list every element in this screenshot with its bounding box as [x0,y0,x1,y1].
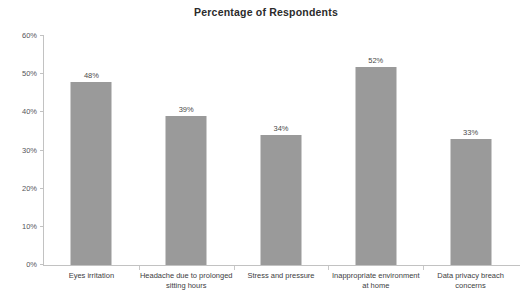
bar-group[interactable]: 33% [423,36,518,265]
plot-area: 48%39%34%52%33% [44,36,518,265]
y-axis-tick: 60% [0,31,44,41]
x-axis-label: Headache due to prolonged sitting hours [139,271,234,291]
y-axis-tick: 50% [0,69,44,79]
bar-group[interactable]: 39% [139,36,234,265]
bar[interactable] [166,116,207,265]
category-tick [423,266,424,270]
chart-title: Percentage of Respondents [0,6,532,18]
y-axis-tick-label: 10% [22,222,37,232]
bar-chart: Percentage of Respondents 0%10%20%30%40%… [0,0,532,296]
bar-value-label: 34% [273,124,288,133]
y-axis-tick: 20% [0,184,44,194]
y-axis-tick-label: 50% [22,69,37,79]
bar[interactable] [355,67,396,265]
y-axis-tick-label: 40% [22,107,37,117]
y-axis-tick-label: 30% [22,146,37,156]
y-axis-tick: 30% [0,146,44,156]
x-axis-label: Eyes irritation [44,271,139,281]
y-axis-tick-label: 60% [22,31,37,41]
bar-group[interactable]: 52% [328,36,423,265]
x-axis-label: Inappropriate environment at home [328,271,423,291]
bar-value-label: 48% [84,71,99,80]
bar[interactable] [450,139,491,265]
bar-value-label: 33% [463,128,478,137]
x-axis-line [43,265,520,266]
bar-value-label: 52% [368,56,383,65]
x-axis-label: Stress and pressure [234,271,329,281]
category-tick [139,266,140,270]
bar[interactable] [260,135,301,265]
category-tick [234,266,235,270]
y-axis-tick-label: 0% [26,260,37,270]
bar-group[interactable]: 34% [234,36,329,265]
y-axis-tick: 10% [0,222,44,232]
x-axis-label: Data privacy breach concerns [423,271,518,291]
bar[interactable] [71,82,112,265]
bar-group[interactable]: 48% [44,36,139,265]
y-axis-tick: 40% [0,107,44,117]
y-axis-tick-label: 20% [22,184,37,194]
y-axis-tick: 0% [0,260,44,270]
category-tick [328,266,329,270]
bar-value-label: 39% [179,105,194,114]
